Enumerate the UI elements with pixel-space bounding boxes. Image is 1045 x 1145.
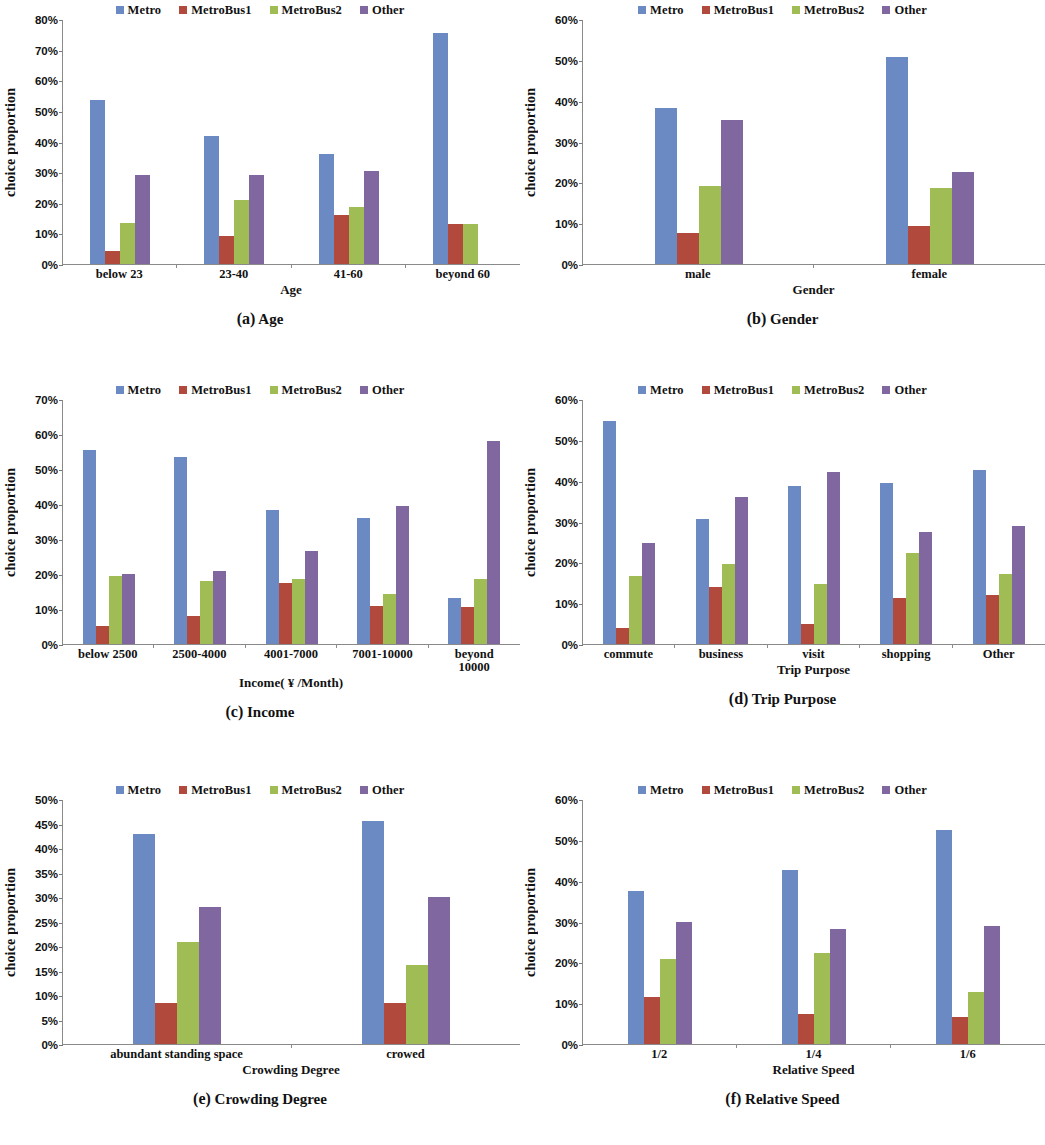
bar-other[interactable] bbox=[364, 171, 379, 264]
bar-metro[interactable] bbox=[357, 518, 370, 644]
legend-item-other[interactable]: Other bbox=[882, 783, 926, 798]
legend-item-metrobus1[interactable]: MetroBus1 bbox=[702, 783, 774, 798]
bar-other[interactable] bbox=[721, 120, 743, 264]
bar-metrobus2[interactable] bbox=[814, 953, 830, 1044]
legend-item-metro[interactable]: Metro bbox=[638, 783, 684, 798]
bar-metrobus1[interactable] bbox=[105, 251, 120, 264]
legend-item-metrobus2[interactable]: MetroBus2 bbox=[270, 783, 342, 798]
bar-metrobus1[interactable] bbox=[219, 236, 234, 264]
legend-item-metro[interactable]: Metro bbox=[116, 783, 162, 798]
legend-item-other[interactable]: Other bbox=[360, 3, 404, 18]
bar-metrobus1[interactable] bbox=[279, 583, 292, 644]
bar-metrobus2[interactable] bbox=[722, 564, 735, 644]
bar-metrobus1[interactable] bbox=[461, 607, 474, 644]
bar-metrobus1[interactable] bbox=[798, 1014, 814, 1044]
bar-other[interactable] bbox=[984, 926, 1000, 1044]
bar-metro[interactable] bbox=[133, 834, 155, 1044]
bar-metrobus2[interactable] bbox=[463, 224, 478, 264]
bar-metrobus1[interactable] bbox=[155, 1003, 177, 1044]
bar-other[interactable] bbox=[305, 551, 318, 644]
legend-item-other[interactable]: Other bbox=[360, 383, 404, 398]
bar-metrobus2[interactable] bbox=[814, 584, 827, 644]
bar-metro[interactable] bbox=[83, 450, 96, 644]
legend-item-metrobus1[interactable]: MetroBus1 bbox=[702, 383, 774, 398]
bar-metrobus2[interactable] bbox=[177, 942, 199, 1044]
bar-metrobus2[interactable] bbox=[109, 576, 122, 644]
bar-metrobus2[interactable] bbox=[968, 992, 984, 1044]
bar-other[interactable] bbox=[952, 172, 974, 264]
bar-metrobus1[interactable] bbox=[677, 233, 699, 264]
bar-metrobus1[interactable] bbox=[448, 224, 463, 264]
bar-metro[interactable] bbox=[880, 483, 893, 644]
bar-metrobus1[interactable] bbox=[709, 587, 722, 644]
bar-metro[interactable] bbox=[448, 598, 461, 644]
legend-item-metrobus2[interactable]: MetroBus2 bbox=[792, 783, 864, 798]
bar-metrobus2[interactable] bbox=[629, 576, 642, 644]
bar-metrobus1[interactable] bbox=[96, 626, 109, 644]
bar-metrobus2[interactable] bbox=[660, 959, 676, 1044]
bar-other[interactable] bbox=[428, 897, 450, 1044]
bar-metrobus2[interactable] bbox=[699, 186, 721, 264]
bar-metrobus2[interactable] bbox=[349, 207, 364, 264]
bar-metrobus2[interactable] bbox=[906, 553, 919, 644]
bar-metrobus2[interactable] bbox=[999, 574, 1012, 644]
bar-other[interactable] bbox=[213, 571, 226, 645]
bar-other[interactable] bbox=[827, 472, 840, 644]
bar-metro[interactable] bbox=[204, 136, 219, 264]
bar-metrobus2[interactable] bbox=[292, 579, 305, 644]
bar-metrobus2[interactable] bbox=[200, 581, 213, 644]
bar-other[interactable] bbox=[122, 574, 135, 644]
bar-other[interactable] bbox=[830, 929, 846, 1044]
bar-metro[interactable] bbox=[886, 57, 908, 264]
legend-item-metrobus1[interactable]: MetroBus1 bbox=[179, 783, 251, 798]
bar-metrobus1[interactable] bbox=[644, 997, 660, 1044]
bar-metro[interactable] bbox=[362, 821, 384, 1044]
legend-item-metrobus1[interactable]: MetroBus1 bbox=[179, 383, 251, 398]
bar-metrobus1[interactable] bbox=[334, 215, 349, 264]
legend-item-metrobus2[interactable]: MetroBus2 bbox=[270, 3, 342, 18]
bar-metrobus2[interactable] bbox=[234, 200, 249, 264]
bar-other[interactable] bbox=[199, 907, 221, 1044]
bar-other[interactable] bbox=[487, 441, 500, 644]
bar-other[interactable] bbox=[135, 175, 150, 264]
bar-metrobus1[interactable] bbox=[384, 1003, 406, 1044]
legend-item-metrobus2[interactable]: MetroBus2 bbox=[792, 383, 864, 398]
bar-metro[interactable] bbox=[90, 100, 105, 264]
bar-metro[interactable] bbox=[655, 108, 677, 264]
bar-other[interactable] bbox=[249, 175, 264, 264]
legend-item-metrobus1[interactable]: MetroBus1 bbox=[179, 3, 251, 18]
bar-metro[interactable] bbox=[319, 154, 334, 264]
bar-metro[interactable] bbox=[603, 421, 616, 644]
bar-metro[interactable] bbox=[973, 470, 986, 644]
bar-metrobus2[interactable] bbox=[930, 188, 952, 264]
bar-metro[interactable] bbox=[174, 457, 187, 644]
legend-item-other[interactable]: Other bbox=[882, 3, 926, 18]
bar-metro[interactable] bbox=[628, 891, 644, 1044]
bar-metrobus2[interactable] bbox=[474, 579, 487, 644]
bar-metro[interactable] bbox=[696, 519, 709, 644]
bar-metro[interactable] bbox=[782, 870, 798, 1044]
bar-metro[interactable] bbox=[266, 510, 279, 644]
legend-item-metro[interactable]: Metro bbox=[638, 3, 684, 18]
legend-item-other[interactable]: Other bbox=[360, 783, 404, 798]
bar-metrobus1[interactable] bbox=[187, 616, 200, 644]
bar-other[interactable] bbox=[735, 497, 748, 644]
legend-item-metrobus2[interactable]: MetroBus2 bbox=[270, 383, 342, 398]
legend-item-other[interactable]: Other bbox=[882, 383, 926, 398]
bar-metrobus1[interactable] bbox=[893, 598, 906, 644]
bar-metrobus2[interactable] bbox=[120, 223, 135, 264]
bar-metrobus1[interactable] bbox=[616, 628, 629, 644]
legend-item-metro[interactable]: Metro bbox=[116, 3, 162, 18]
bar-metro[interactable] bbox=[433, 33, 448, 264]
bar-metrobus2[interactable] bbox=[406, 965, 428, 1044]
bar-metrobus1[interactable] bbox=[952, 1017, 968, 1044]
bar-other[interactable] bbox=[396, 506, 409, 644]
bar-metrobus1[interactable] bbox=[986, 595, 999, 644]
bar-metro[interactable] bbox=[936, 830, 952, 1044]
bar-metrobus1[interactable] bbox=[801, 624, 814, 644]
legend-item-metro[interactable]: Metro bbox=[638, 383, 684, 398]
legend-item-metrobus2[interactable]: MetroBus2 bbox=[792, 3, 864, 18]
bar-metrobus1[interactable] bbox=[370, 606, 383, 645]
bar-metro[interactable] bbox=[788, 486, 801, 644]
legend-item-metro[interactable]: Metro bbox=[116, 383, 162, 398]
